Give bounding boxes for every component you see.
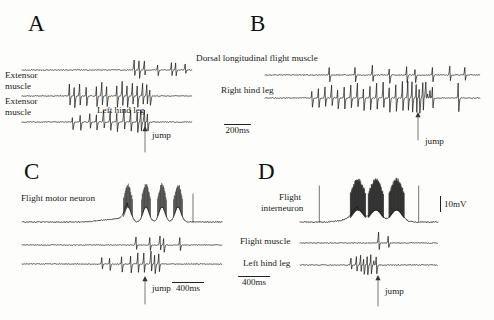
panel-d-traces: [0, 0, 494, 320]
trace-label-flight-muscle: Flight muscle: [240, 236, 290, 247]
jump-label-d: jump: [385, 287, 404, 296]
scalebar-10mv-line: [440, 196, 441, 212]
jump-arrow-d: [375, 275, 380, 306]
scalebar-400ms-d: 400ms: [238, 276, 270, 288]
trace-label-flight-interneuron: Flight interneuron: [261, 192, 301, 213]
figure-canvas: A Extensor muscle Extensor muscle Left h…: [0, 0, 494, 320]
trace-label-left-hind-leg-d: Left hind leg: [243, 258, 290, 269]
trace-left-hind-leg-d: [300, 255, 437, 275]
trace-flight-muscle-d: [300, 232, 437, 249]
scalebar-400ms-d-label: 400ms: [238, 277, 270, 288]
scalebar-10mv-label: 10mV: [444, 200, 467, 209]
scalebar-10mv: 10mV: [440, 196, 467, 212]
